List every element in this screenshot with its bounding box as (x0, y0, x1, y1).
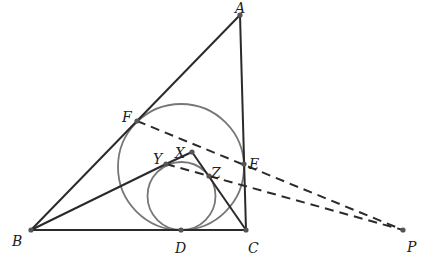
point-C (243, 227, 248, 232)
label-F: F (121, 109, 133, 125)
point-B (28, 227, 33, 232)
label-P: P (406, 239, 417, 255)
label-Z: Z (210, 165, 221, 181)
segments (31, 15, 403, 230)
point-E (241, 161, 246, 166)
label-A: A (233, 0, 245, 16)
segment-FP (137, 121, 403, 230)
label-D: D (174, 240, 186, 256)
label-Y: Y (153, 151, 164, 167)
points (28, 12, 405, 232)
label-C: C (248, 240, 259, 256)
label-B: B (11, 233, 22, 249)
segment-YP (166, 164, 403, 230)
label-X: X (174, 145, 186, 161)
point-P (400, 227, 405, 232)
point-F (134, 118, 139, 123)
segment-AC (240, 15, 246, 230)
point-X (189, 149, 194, 154)
label-E: E (248, 156, 259, 172)
point-D (178, 227, 183, 232)
point-Y (163, 161, 168, 166)
geometry-diagram: ABCDEFXYZP (0, 0, 429, 259)
